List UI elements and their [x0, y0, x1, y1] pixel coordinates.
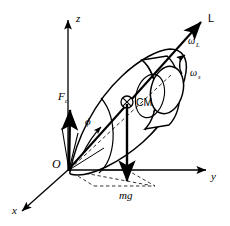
constraint-force-label: F [57, 90, 65, 102]
precession-rate-label-group: ω L [188, 35, 200, 48]
x-axis-label: x [11, 204, 17, 216]
gyroscope-diagram: z y x O L ω L ω s CM [0, 0, 230, 226]
constraint-force-subscript: c [65, 97, 68, 104]
tilt-angle-label: ϕ [85, 115, 91, 127]
weight-label: mg [119, 189, 133, 201]
spin-omega-label: ω [190, 67, 197, 78]
precession-omega-label: ω [188, 35, 195, 46]
origin-label: O [52, 157, 61, 171]
spin-rate-label-group: ω s [190, 67, 201, 80]
z-axis-label: z [75, 12, 81, 24]
constraint-force-label-group: F c [57, 90, 68, 104]
angular-momentum-label: L [208, 12, 214, 24]
spin-omega-subscript: s [198, 73, 201, 80]
center-of-mass-label: CM [136, 96, 152, 108]
precession-omega-subscript: L [195, 41, 200, 48]
y-axis-label: y [210, 170, 216, 182]
x-axis[interactable] [22, 170, 68, 211]
